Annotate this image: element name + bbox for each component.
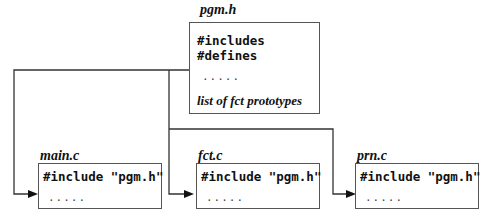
prn-c-ellipsis: ..... <box>365 191 403 204</box>
fct-c-ellipsis: ..... <box>206 191 244 204</box>
main-c-ellipsis: ..... <box>48 191 86 204</box>
header-ellipsis: ..... <box>202 70 240 83</box>
prn-c-title: prn.c <box>357 148 387 164</box>
header-line-includes: #includes <box>197 33 265 48</box>
prn-c-include: #include "pgm.h" <box>360 169 480 184</box>
fct-c-box: #include "pgm.h" ..... <box>196 163 320 209</box>
header-file-title: pgm.h <box>200 2 236 18</box>
prn-c-box: #include "pgm.h" ..... <box>355 163 479 209</box>
fct-c-include: #include "pgm.h" <box>201 169 321 184</box>
header-line-defines: #defines <box>197 48 257 63</box>
fct-c-title: fct.c <box>198 148 222 164</box>
header-file-box: #includes #defines ..... list of fct pro… <box>189 22 320 114</box>
main-c-include: #include "pgm.h" <box>43 169 163 184</box>
header-prototypes: list of fct prototypes <box>197 93 302 109</box>
main-c-title: main.c <box>40 148 79 164</box>
main-c-box: #include "pgm.h" ..... <box>38 163 162 209</box>
